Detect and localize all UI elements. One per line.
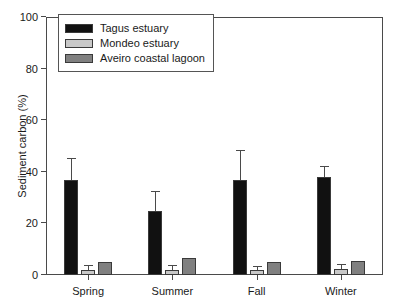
y-tick-label: 0 — [32, 267, 38, 283]
x-axis-label-spring: Spring — [72, 283, 104, 299]
error-bar-cap — [337, 264, 346, 265]
y-tick-label: 40 — [26, 164, 38, 180]
bar-summer-aveiro-coastal-lagoon — [182, 258, 196, 275]
legend-swatch-icon — [65, 24, 93, 33]
error-bar-cap — [236, 150, 245, 151]
error-bar-stem — [257, 267, 258, 270]
y-tick-label: 80 — [26, 61, 38, 77]
error-bar-cap — [151, 191, 160, 192]
bar-group-fall — [233, 17, 281, 275]
error-bar-cap — [253, 266, 262, 267]
x-tick-summer — [172, 275, 173, 280]
error-bar-stem — [172, 266, 173, 270]
bar-group-winter — [317, 17, 365, 275]
y-tick-label: 100 — [20, 9, 38, 25]
legend-item-aveiro-coastal-lagoon: Aveiro coastal lagoon — [65, 51, 205, 65]
bar-spring-tagus-estuary — [64, 180, 78, 275]
legend-item-label: Mondeo estuary — [100, 36, 179, 50]
x-axis-label-winter: Winter — [325, 283, 357, 299]
chart-legend: Tagus estuaryMondeo estuaryAveiro coasta… — [58, 14, 214, 72]
legend-item-label: Tagus estuary — [100, 21, 168, 35]
bar-winter-tagus-estuary — [317, 177, 331, 275]
error-bar-cap — [67, 158, 76, 159]
sediment-carbon-bar-chart: Sediment carbon (%) 020406080100 SpringS… — [0, 0, 406, 304]
legend-swatch-icon — [65, 54, 93, 63]
bar-fall-tagus-estuary — [233, 180, 247, 275]
error-bar-cap — [168, 265, 177, 266]
error-bar-stem — [240, 151, 241, 179]
y-axis-title: Sediment carbon (%) — [13, 17, 31, 275]
x-tick-fall — [257, 275, 258, 280]
legend-swatch-icon — [65, 39, 93, 48]
legend-item-tagus-estuary: Tagus estuary — [65, 21, 205, 35]
error-bar-stem — [88, 266, 89, 270]
x-axis-label-fall: Fall — [248, 283, 266, 299]
x-tick-winter — [341, 275, 342, 280]
x-tick-spring — [88, 275, 89, 280]
bar-fall-aveiro-coastal-lagoon — [267, 262, 281, 275]
bar-summer-tagus-estuary — [148, 211, 162, 276]
legend-item-mondeo-estuary: Mondeo estuary — [65, 36, 205, 50]
error-bar-stem — [341, 265, 342, 269]
error-bar-stem — [155, 192, 156, 210]
error-bar-stem — [324, 167, 325, 177]
error-bar-cap — [320, 166, 329, 167]
bar-spring-aveiro-coastal-lagoon — [98, 262, 112, 275]
legend-item-label: Aveiro coastal lagoon — [100, 51, 205, 65]
y-tick-label: 20 — [26, 215, 38, 231]
error-bar-cap — [84, 265, 93, 266]
bar-winter-aveiro-coastal-lagoon — [351, 261, 365, 275]
x-axis-label-summer: Summer — [152, 283, 194, 299]
y-tick-label: 60 — [26, 112, 38, 128]
error-bar-stem — [71, 159, 72, 180]
